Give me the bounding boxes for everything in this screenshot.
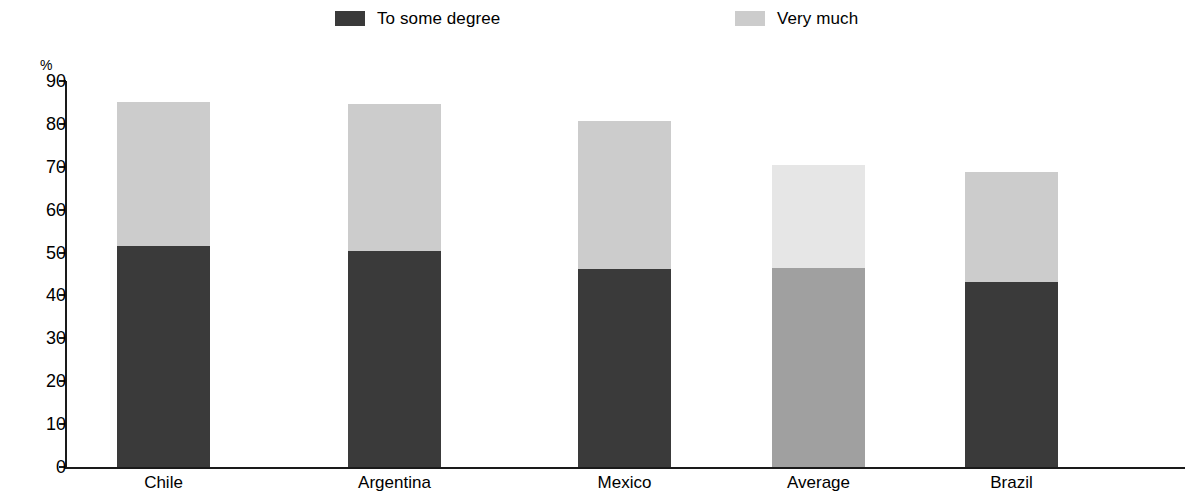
bar-chile [117, 102, 210, 467]
bar-segment-to-some-degree-brazil [965, 282, 1058, 467]
y-tick-label-40: 40 [26, 286, 66, 304]
bar-segment-to-some-degree-chile [117, 246, 210, 467]
y-axis-unit-label: % [40, 58, 52, 72]
y-tick-label-10: 10 [26, 415, 66, 433]
y-tick-label-20: 20 [26, 372, 66, 390]
x-axis-label-mexico: Mexico [578, 474, 671, 491]
bar-average [772, 165, 865, 467]
plot-area: % 9080706050403020100 ChileArgentinaMexi… [0, 0, 1190, 492]
y-axis-line [65, 81, 67, 469]
bar-segment-to-some-degree-argentina [348, 251, 441, 467]
y-tick-label-70: 70 [26, 158, 66, 176]
bar-segment-very-much-argentina [348, 104, 441, 252]
x-axis-label-brazil: Brazil [965, 474, 1058, 491]
bar-segment-very-much-chile [117, 102, 210, 246]
x-axis-label-argentina: Argentina [348, 474, 441, 491]
x-axis-label-average: Average [772, 474, 865, 491]
bar-segment-very-much-average [772, 165, 865, 268]
bar-mexico [578, 121, 671, 467]
bar-segment-very-much-brazil [965, 172, 1058, 281]
bar-segment-to-some-degree-average [772, 268, 865, 467]
x-axis-line [65, 467, 1185, 469]
y-tick-label-0: 0 [26, 458, 66, 476]
bar-segment-very-much-mexico [578, 121, 671, 269]
y-tick-label-60: 60 [26, 201, 66, 219]
y-tick-label-30: 30 [26, 329, 66, 347]
y-tick-label-50: 50 [26, 244, 66, 262]
x-axis-label-chile: Chile [117, 474, 210, 491]
y-tick-label-90: 90 [26, 72, 66, 90]
bar-argentina [348, 104, 441, 467]
bar-segment-to-some-degree-mexico [578, 269, 671, 467]
bar-brazil [965, 172, 1058, 467]
chart-figure: To some degree Very much % 9080706050403… [0, 0, 1190, 492]
y-tick-label-80: 80 [26, 115, 66, 133]
